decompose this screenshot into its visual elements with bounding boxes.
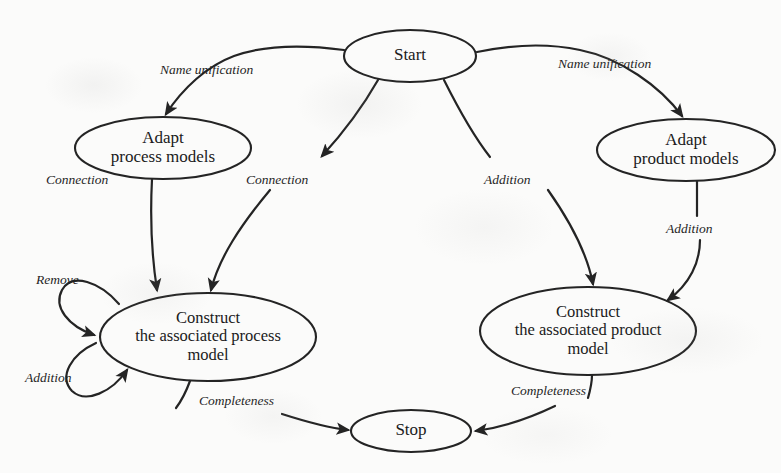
edge-start-to-construct-process-lower[interactable] [211,190,270,290]
node-construct-product-model-shape[interactable] [480,287,696,375]
node-construct-process-model-shape[interactable] [100,293,316,381]
edge-start-to-construct-product-lower[interactable] [548,190,593,284]
edge-construct-process-self-remove[interactable] [59,281,119,335]
edge-construct-process-to-stop[interactable] [176,381,190,408]
diagram-svg [0,0,781,473]
edge-start-to-construct-process[interactable] [322,80,378,156]
edge-construct-process-self-addition[interactable] [66,343,127,396]
node-adapt-product-models-shape[interactable] [597,119,775,181]
edge-construct-process-to-stop-arrow[interactable] [282,414,348,430]
edge-adapt-product-to-construct-product-lower[interactable] [668,240,700,300]
edge-construct-product-to-stop[interactable] [588,375,592,398]
edge-start-to-construct-product[interactable] [444,80,490,157]
node-start-shape[interactable] [344,30,476,82]
node-adapt-process-models-shape[interactable] [75,117,251,179]
node-stop-shape[interactable] [351,410,471,452]
diagram-canvas: Start Adapt process models Adapt product… [0,0,781,473]
edge-construct-product-to-stop-arrow[interactable] [476,406,555,431]
edge-start-to-adapt-product[interactable] [477,46,682,116]
edge-start-to-adapt-process[interactable] [166,47,344,114]
edge-adapt-process-to-construct-process[interactable] [151,179,157,290]
